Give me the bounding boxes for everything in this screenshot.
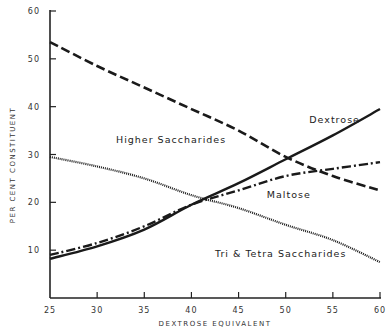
series-label-tri-tetra-saccharides: Tri & Tetra Saccharides xyxy=(214,248,346,259)
x-tick-label: 60 xyxy=(374,306,386,315)
x-tick-label: 45 xyxy=(232,306,244,315)
series-label-maltose: Maltose xyxy=(267,189,311,200)
x-tick-label: 25 xyxy=(44,306,56,315)
y-tick-label: 60 xyxy=(28,7,40,16)
series-labels: DextroseHigher SaccharidesMaltoseTri & T… xyxy=(116,114,360,259)
y-tick-label: 40 xyxy=(28,103,40,112)
y-axis-title: PER CENT CONSTITUENT xyxy=(9,107,17,224)
line-chart: 2530354045505560102030405060 DextroseHig… xyxy=(0,0,392,334)
x-tick-label: 40 xyxy=(185,306,197,315)
x-axis-title: DEXTROSE EQUIVALENT xyxy=(159,320,272,328)
series-line-dextrose xyxy=(50,109,380,259)
series-line-maltose xyxy=(50,162,380,255)
y-tick-label: 10 xyxy=(28,246,40,255)
y-tick-label: 30 xyxy=(28,151,40,160)
y-tick-label: 20 xyxy=(28,198,40,207)
x-tick-label: 55 xyxy=(327,306,339,315)
x-tick-label: 50 xyxy=(280,306,292,315)
x-tick-label: 30 xyxy=(91,306,103,315)
axes: 2530354045505560102030405060 xyxy=(28,7,386,315)
x-tick-label: 35 xyxy=(138,306,150,315)
y-tick-label: 50 xyxy=(28,55,40,64)
series-label-dextrose: Dextrose xyxy=(309,114,360,125)
series-label-higher-saccharides: Higher Saccharides xyxy=(116,134,226,145)
series-lines xyxy=(50,42,380,262)
